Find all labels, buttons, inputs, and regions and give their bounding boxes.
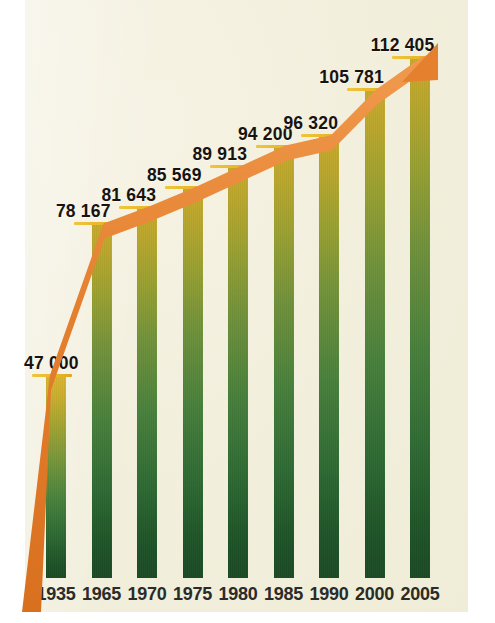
value-tick-2005 — [392, 56, 436, 59]
value-tick-2000 — [347, 88, 391, 91]
bar-texture — [319, 136, 339, 578]
bar-1965 — [92, 224, 112, 578]
chart-root: 47 000193578 167196581 643197085 5691975… — [0, 0, 495, 623]
x-axis-label-1975: 1975 — [170, 584, 216, 605]
value-tick-1935 — [32, 374, 72, 377]
bar-texture — [46, 376, 66, 578]
x-axis-label-1980: 1980 — [215, 584, 261, 605]
value-label-2000: 105 781 — [319, 67, 384, 88]
bar-texture — [228, 167, 248, 578]
x-axis-label-2005: 2005 — [397, 584, 443, 605]
bar-texture — [274, 147, 294, 578]
x-axis-label-2000: 2000 — [352, 584, 398, 605]
value-tick-1980 — [210, 165, 254, 168]
bar-texture — [183, 188, 203, 578]
plot-area: 47 000193578 167196581 643197085 5691975… — [0, 0, 495, 623]
x-axis-label-1935: 1935 — [33, 584, 79, 605]
bar-1990 — [319, 136, 339, 578]
value-tick-1965 — [74, 222, 118, 225]
bar-texture — [410, 58, 430, 578]
value-tick-1990 — [301, 134, 345, 137]
bar-texture — [137, 208, 157, 578]
value-label-1935: 47 000 — [24, 353, 79, 374]
value-tick-1985 — [256, 145, 300, 148]
value-label-1980: 89 913 — [192, 144, 247, 165]
value-label-2005: 112 405 — [371, 35, 435, 56]
bar-2000 — [365, 90, 385, 578]
x-axis-label-1990: 1990 — [306, 584, 352, 605]
bar-2005 — [410, 58, 430, 578]
bar-texture — [365, 90, 385, 578]
bar-1935 — [46, 376, 66, 578]
bar-1980 — [228, 167, 248, 578]
value-label-1990: 96 320 — [283, 113, 338, 134]
bar-1970 — [137, 208, 157, 578]
figure-caption — [25, 612, 468, 623]
x-axis-label-1965: 1965 — [79, 584, 125, 605]
bar-1975 — [183, 188, 203, 578]
value-label-1970: 81 643 — [101, 185, 156, 206]
value-tick-1970 — [119, 206, 163, 209]
bar-texture — [92, 224, 112, 578]
x-axis-label-1970: 1970 — [124, 584, 170, 605]
x-axis-label-1985: 1985 — [261, 584, 307, 605]
bar-1985 — [274, 147, 294, 578]
value-label-1975: 85 569 — [147, 165, 202, 186]
